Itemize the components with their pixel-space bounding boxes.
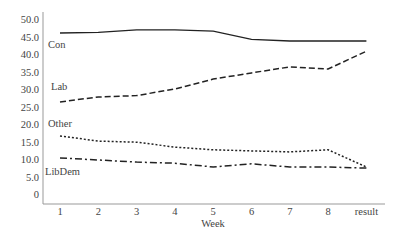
x-tick-label: result xyxy=(355,206,378,218)
y-tick-label: 10.0 xyxy=(21,154,39,166)
series-line-con xyxy=(60,30,366,41)
y-tick-label: 5.0 xyxy=(26,172,39,184)
series-line-other xyxy=(60,136,366,167)
y-tick-label: 15.0 xyxy=(21,137,39,149)
y-tick-label: 35.0 xyxy=(21,67,39,79)
y-tick-label: 40.0 xyxy=(21,49,39,61)
series-label-con: Con xyxy=(48,39,66,51)
x-tick-label: 3 xyxy=(134,206,139,218)
series-line-lab xyxy=(60,51,366,102)
x-tick-label: 6 xyxy=(249,206,254,218)
x-tick-label: 5 xyxy=(211,206,216,218)
series-label-lab: Lab xyxy=(51,81,67,93)
x-tick-label: 2 xyxy=(96,206,101,218)
series-label-other: Other xyxy=(48,118,72,130)
y-tick-label: 45.0 xyxy=(21,32,39,44)
y-tick-label: 30.0 xyxy=(21,84,39,96)
x-tick-label: 1 xyxy=(57,206,62,218)
y-tick-label: 25.0 xyxy=(21,102,39,114)
series-label-libdem: LibDem xyxy=(45,166,80,178)
y-tick-label: 50.0 xyxy=(21,14,39,26)
x-tick-label: 7 xyxy=(287,206,292,218)
y-tick-label: 0 xyxy=(34,189,39,201)
series-layer xyxy=(60,30,366,168)
series-line-libdem xyxy=(60,158,366,168)
y-tick-label: 20.0 xyxy=(21,119,39,131)
x-tick-label: 8 xyxy=(325,206,330,218)
x-tick-label: 4 xyxy=(172,206,177,218)
x-axis-label: Week xyxy=(201,218,225,230)
